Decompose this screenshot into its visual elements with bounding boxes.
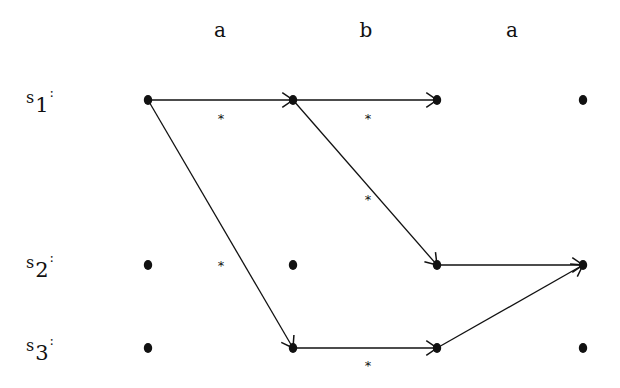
node-c2-r2 (433, 343, 441, 353)
node-c2-r1 (433, 260, 441, 270)
asterisk-mark: * (218, 111, 225, 126)
node-c2-r0 (433, 95, 441, 105)
edge-6 (437, 265, 583, 348)
node-c1-r0 (289, 95, 297, 105)
asterisk-mark: * (365, 358, 372, 373)
run-graph: ***** (0, 0, 620, 388)
node-c1-r1 (289, 260, 297, 270)
asterisk-mark: * (365, 192, 372, 207)
edge-1 (148, 100, 293, 348)
node-c3-r0 (579, 95, 587, 105)
asterisk-mark: * (218, 258, 225, 273)
node-c0-r0 (144, 95, 152, 105)
node-c0-r1 (144, 260, 152, 270)
node-c3-r2 (579, 343, 587, 353)
node-c1-r2 (289, 343, 297, 353)
asterisk-mark: * (365, 111, 372, 126)
node-c3-r1 (579, 260, 587, 270)
node-c0-r2 (144, 343, 152, 353)
